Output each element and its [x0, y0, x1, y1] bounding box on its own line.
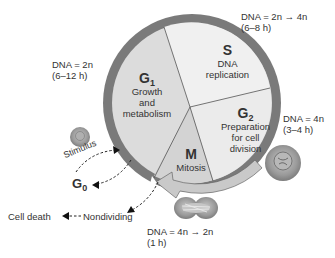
s-time-label: (6–8 h)	[241, 22, 271, 33]
g1-dna-label: DNA = 2n	[52, 59, 93, 70]
m-dna-label: DNA = 4n → 2n	[147, 226, 213, 237]
cell-death-label: Cell death	[8, 211, 51, 222]
phase-s: S DNA replication	[190, 43, 265, 80]
nondividing-label: Nondividing	[83, 211, 133, 222]
g0-label: G0	[72, 177, 87, 191]
m-time-label: (1 h)	[147, 237, 167, 248]
phase-g1: G1 Growth and metabolism	[112, 71, 182, 119]
s-dna-label: DNA = 2n → 4n	[241, 11, 307, 22]
phase-g2: G2 Preparation for cell division	[213, 106, 278, 154]
cell-mitosis-icon	[174, 197, 218, 219]
g2-dna-label: DNA = 4n	[283, 113, 324, 124]
g2-time-label: (3–4 h)	[283, 124, 313, 135]
g1-time-label: (6–12 h)	[52, 70, 87, 81]
phase-m: M Mitosis	[166, 147, 216, 173]
